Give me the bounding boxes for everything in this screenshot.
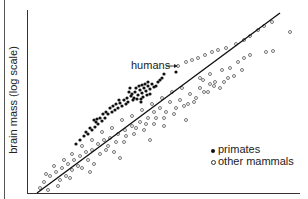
primate-point (103, 116, 106, 119)
other-mammal-point (202, 79, 205, 82)
other-mammal-point (217, 49, 220, 52)
other-mammal-point (187, 103, 190, 106)
other-mammal-point (163, 117, 166, 120)
scatter-plot (0, 0, 308, 199)
other-mammal-point (147, 117, 150, 120)
primate-point (174, 70, 177, 73)
other-mammal-point (243, 57, 246, 60)
other-mammal-point (199, 77, 202, 80)
primate-point (127, 90, 130, 93)
other-mammal-point (204, 54, 207, 57)
other-mammal-point (65, 175, 68, 178)
primate-point (84, 130, 87, 133)
other-mammal-point (133, 133, 136, 136)
other-mammal-point (45, 173, 48, 176)
other-mammal-point (191, 59, 194, 62)
other-mammal-point (209, 83, 212, 86)
other-mammal-point (69, 177, 72, 180)
other-mammal-point (105, 149, 108, 152)
other-mammal-point (111, 127, 114, 130)
filled-circle-icon (211, 149, 215, 153)
other-mammal-point (289, 31, 292, 34)
other-mammal-point (107, 145, 110, 148)
primate-point (132, 96, 135, 99)
humans-annotation: humans (131, 59, 170, 71)
other-mammal-point (57, 185, 60, 188)
primate-point (129, 94, 132, 97)
primate-point (108, 106, 111, 109)
other-mammal-point (47, 189, 50, 192)
primate-point (113, 108, 116, 111)
primate-point (144, 89, 147, 92)
primate-point (111, 104, 114, 107)
other-mammal-point (169, 101, 172, 104)
primate-point (145, 93, 148, 96)
other-mammal-point (207, 91, 210, 94)
primate-point (128, 86, 131, 89)
primate-point (82, 134, 85, 137)
other-mammal-point (93, 163, 96, 166)
primate-point (101, 112, 104, 115)
other-mammal-point (227, 77, 230, 80)
other-mammal-point (271, 21, 274, 24)
other-mammal-point (179, 99, 182, 102)
other-mammal-point (71, 153, 74, 156)
primate-point (133, 90, 136, 93)
other-mammal-point (159, 107, 162, 110)
other-mammal-point (63, 159, 66, 162)
primate-point (139, 100, 142, 103)
other-mammal-point (125, 135, 128, 138)
other-mammal-point (115, 141, 118, 144)
other-mammal-point (61, 167, 64, 170)
primate-point (160, 76, 163, 79)
primate-point (114, 102, 117, 105)
other-mammal-point (183, 105, 186, 108)
other-mammal-point (131, 115, 134, 118)
other-mammal-point (149, 139, 152, 142)
other-mammal-point (272, 50, 275, 53)
other-mammal-point (163, 125, 166, 128)
primate-point (118, 101, 121, 104)
other-mammal-point (49, 175, 52, 178)
primate-point (117, 98, 120, 101)
other-mammal-point (223, 81, 226, 84)
other-mammal-point (103, 139, 106, 142)
primate-point (110, 110, 113, 113)
primate-point (146, 80, 149, 83)
legend-item-primates: primates (210, 143, 294, 155)
y-axis-label: brain mass (log scale) (7, 46, 19, 154)
primate-point (139, 97, 142, 100)
other-mammal-point (77, 165, 80, 168)
other-mammal-point (91, 139, 94, 142)
primate-point (122, 98, 125, 101)
other-mammal-point (71, 169, 74, 172)
other-mammal-point (185, 119, 188, 122)
primate-point (138, 88, 141, 91)
other-mammal-point (241, 69, 244, 72)
other-mammal-point (189, 93, 192, 96)
primate-point (136, 93, 139, 96)
primate-point (120, 104, 123, 107)
other-mammal-point (145, 123, 148, 126)
other-mammal-point (81, 145, 84, 148)
other-mammal-point (151, 103, 154, 106)
primate-point (78, 138, 81, 141)
other-mammal-point (193, 101, 196, 104)
other-mammal-point (39, 187, 42, 190)
other-mammal-point (89, 171, 92, 174)
legend: primates other mammals (210, 143, 294, 167)
other-mammal-point (249, 54, 252, 57)
primate-point (124, 102, 127, 105)
other-mammal-point (121, 119, 124, 122)
other-mammal-point (173, 113, 176, 116)
other-mammal-point (199, 87, 202, 90)
other-mammal-point (85, 151, 88, 154)
other-mammal-point (87, 159, 90, 162)
other-mammal-point (185, 61, 188, 64)
other-mammal-point (214, 81, 217, 84)
other-mammal-point (135, 127, 138, 130)
primate-point (98, 116, 101, 119)
primate-point (148, 92, 151, 95)
other-mammal-point (237, 61, 240, 64)
other-mammal-point (81, 167, 84, 170)
